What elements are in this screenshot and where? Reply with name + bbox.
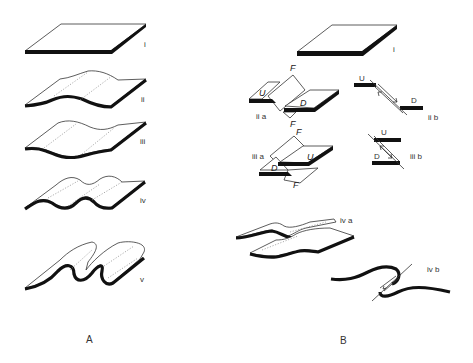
stage-label-a-v: v — [140, 275, 144, 284]
block-label-u-iiia: U — [307, 152, 314, 162]
fault-label-f-bottom-iiia: F — [293, 180, 299, 190]
panel-label-a: A — [86, 334, 93, 345]
fault-label-f-top: F — [290, 63, 296, 73]
stage-label-b-iva: iv a — [340, 216, 353, 225]
block-label-d-iiia: D — [271, 163, 278, 173]
block-label-d: D — [300, 98, 307, 108]
panel-b-stage-i: i — [297, 25, 397, 56]
panel-b: i F U D F ii a U D ii b — [236, 25, 450, 346]
panel-b-stage-iiia: F U D F iii a — [252, 127, 333, 190]
panel-a-stage-ii: ii — [25, 71, 146, 107]
block-label-u-iiib: U — [381, 128, 387, 137]
panel-b-stage-iiib: U D iii b — [368, 128, 423, 169]
panel-b-stage-iia: F U D F ii a — [249, 63, 339, 129]
panel-b-stage-iva: iv a — [236, 216, 354, 257]
stage-label-a-iii: iii — [140, 137, 146, 146]
stage-label-b-i: i — [393, 45, 395, 54]
block-label-u-iib: U — [359, 74, 365, 83]
panel-a-stage-iii: iii — [25, 121, 146, 158]
block-label-d-iib: D — [411, 96, 417, 105]
stage-label-a-iv: iv — [140, 196, 146, 205]
stage-label-b-ivb: iv b — [427, 265, 440, 274]
fault-label-f-top-iiia: F — [296, 127, 302, 137]
panel-label-b: B — [340, 335, 347, 346]
panel-b-stage-ivb: iv b — [331, 264, 450, 301]
panel-a-stage-iv: iv — [25, 176, 146, 209]
block-label-d-iiib: D — [374, 152, 380, 161]
panel-a: i ii iii iv — [25, 24, 146, 345]
block-label-u: U — [259, 88, 266, 98]
stage-label-b-iib: ii b — [428, 113, 439, 122]
fold-fault-diagram: i ii iii iv — [0, 0, 473, 363]
stage-label-a-i: i — [144, 40, 146, 49]
stage-label-b-iia: ii a — [256, 112, 267, 121]
panel-a-stage-v: v — [25, 242, 145, 289]
stage-label-a-ii: ii — [141, 95, 145, 104]
panel-a-stage-i: i — [25, 24, 146, 54]
stage-label-b-iiia: iii a — [252, 152, 265, 161]
panel-b-stage-iib: U D ii b — [354, 74, 439, 122]
stage-label-b-iiib: iii b — [410, 152, 423, 161]
